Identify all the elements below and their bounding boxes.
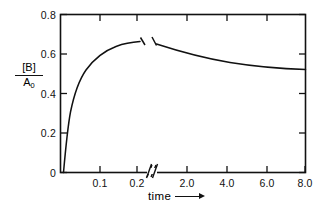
y-axis-ticks (61, 15, 306, 173)
y-tick-label: 0.8 (41, 9, 56, 21)
x-tick-label: 4.0 (219, 177, 234, 189)
x-axis-title-text: time (148, 190, 171, 202)
x-tick-label: 8.0 (297, 177, 312, 189)
denominator-subscript: 0 (31, 81, 35, 90)
series-decay (157, 44, 306, 70)
x-axis-break-marks (147, 164, 158, 178)
y-tick-label: 0.2 (41, 127, 56, 139)
curve-break-marks (141, 37, 157, 46)
y-tick-labels: 0.8 0.6 0.4 0.2 0 (41, 9, 56, 179)
figure-container: 0.8 0.6 0.4 0.2 0 0.1 0.2 2.0 4.0 6.0 8.… (0, 0, 323, 216)
right-arrow-icon (175, 192, 205, 201)
plot-frame (61, 15, 306, 173)
chart-canvas: 0.8 0.6 0.4 0.2 0 0.1 0.2 2.0 4.0 6.0 8.… (0, 0, 323, 216)
y-tick-label: 0.6 (41, 48, 56, 60)
x-tick-label: 0.2 (129, 177, 144, 189)
x-tick-labels-slow: 2.0 4.0 6.0 8.0 (179, 177, 312, 189)
y-axis-title-numerator: [B] (13, 62, 45, 74)
y-axis-title-denominator: A0 (13, 77, 45, 90)
y-axis-title: [B] A0 (13, 62, 45, 89)
x-tick-label: 0.1 (92, 177, 107, 189)
series-rise (64, 42, 141, 173)
x-axis-ticks (100, 15, 305, 173)
denominator-letter: A (23, 76, 30, 88)
x-tick-labels-fast: 0.1 0.2 (92, 177, 144, 189)
y-tick-label: 0 (50, 167, 56, 179)
x-tick-label: 6.0 (259, 177, 274, 189)
x-tick-label: 2.0 (179, 177, 194, 189)
x-axis-title: time (148, 190, 205, 202)
